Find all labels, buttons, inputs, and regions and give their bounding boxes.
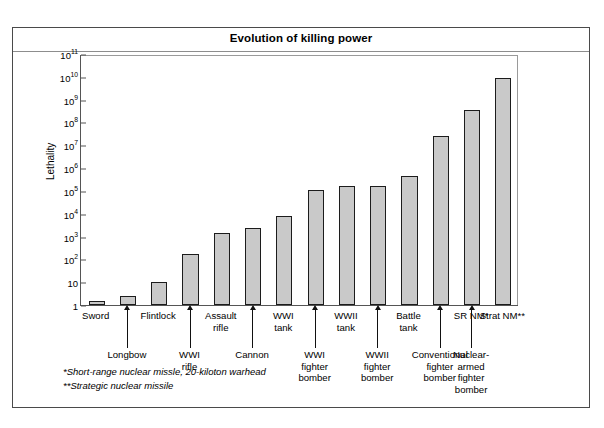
y-axis-tick-mark xyxy=(81,260,86,261)
bar xyxy=(245,228,261,305)
y-axis-tick-label: 106 xyxy=(64,164,78,175)
y-axis-tick-mark xyxy=(81,191,86,192)
y-axis-tick-label: 102 xyxy=(64,255,78,266)
plot-area: 10111010109108107106105104103102101 xyxy=(80,55,518,306)
bar xyxy=(120,296,136,305)
y-axis-tick-label: 108 xyxy=(64,118,78,129)
y-axis-tick-label: 107 xyxy=(64,141,78,152)
x-axis-tick-label: Strat NM** xyxy=(460,310,544,322)
title-divider xyxy=(13,51,589,52)
y-axis-tick-mark xyxy=(81,123,86,124)
bar xyxy=(308,190,324,305)
y-axis-tick-mark xyxy=(81,306,86,307)
label-pointer-arrow xyxy=(377,309,378,348)
y-axis-tick-label: 104 xyxy=(64,209,78,220)
bar xyxy=(151,282,167,305)
bar xyxy=(214,233,230,305)
bar xyxy=(339,186,355,305)
footnote-2: **Strategic nuclear missile xyxy=(63,380,173,391)
y-axis-tick-mark xyxy=(81,214,86,215)
y-axis-tick-mark xyxy=(81,77,86,78)
y-axis-tick-mark xyxy=(81,55,86,56)
label-pointer-arrow xyxy=(471,309,472,348)
bar xyxy=(182,254,198,305)
bar xyxy=(464,110,480,305)
label-pointer-arrow xyxy=(440,309,441,348)
y-axis-tick-label: 10 xyxy=(67,278,78,289)
bar xyxy=(370,186,386,305)
y-axis-tick-mark xyxy=(81,146,86,147)
bar xyxy=(89,301,105,305)
y-axis-tick-label: 105 xyxy=(64,186,78,197)
y-axis-tick-label: 103 xyxy=(64,232,78,243)
bar xyxy=(276,216,292,305)
bar xyxy=(433,136,449,305)
chart-title: Evolution of killing power xyxy=(13,32,589,44)
label-pointer-arrow xyxy=(127,309,128,348)
chart-frame: Evolution of killing power Lethality 101… xyxy=(12,27,590,408)
y-axis-tick-mark xyxy=(81,283,86,284)
y-axis-tick-mark xyxy=(81,237,86,238)
y-axis-label: Lethality xyxy=(45,143,56,180)
label-pointer-arrow xyxy=(315,309,316,348)
y-axis-tick-label: 1010 xyxy=(60,72,78,83)
bar xyxy=(401,176,417,305)
x-axis-tick-label: Nuclear- armed fighter bomber xyxy=(429,349,513,395)
y-axis-tick-mark xyxy=(81,169,86,170)
y-axis-tick-label: 1011 xyxy=(60,50,78,61)
y-axis-tick-mark xyxy=(81,100,86,101)
bar xyxy=(495,78,511,305)
y-axis-tick-label: 109 xyxy=(64,95,78,106)
label-pointer-arrow xyxy=(190,309,191,348)
label-pointer-arrow xyxy=(252,309,253,348)
